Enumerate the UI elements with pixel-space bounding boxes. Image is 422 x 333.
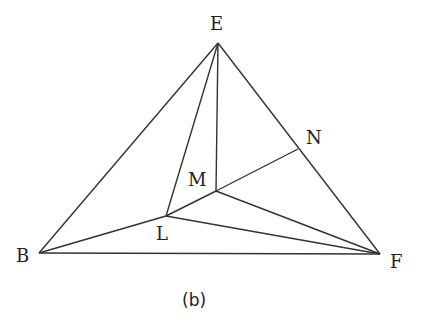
segment-BL — [39, 216, 166, 253]
segment-EL — [166, 43, 218, 216]
label-L: L — [156, 223, 168, 244]
label-E: E — [210, 13, 223, 34]
segment-LM — [166, 191, 216, 216]
triangle-diagram: E B F N M L (b) — [0, 0, 422, 333]
segment-LF — [166, 216, 380, 254]
label-N: N — [306, 127, 322, 148]
segment-MN — [216, 149, 298, 191]
figure-caption: (b) — [182, 290, 206, 310]
label-F: F — [390, 251, 403, 272]
segment-EM — [216, 43, 218, 191]
label-M: M — [188, 169, 206, 190]
segment-EB — [39, 43, 218, 253]
label-B: B — [16, 245, 29, 266]
segment-BF — [39, 253, 380, 254]
